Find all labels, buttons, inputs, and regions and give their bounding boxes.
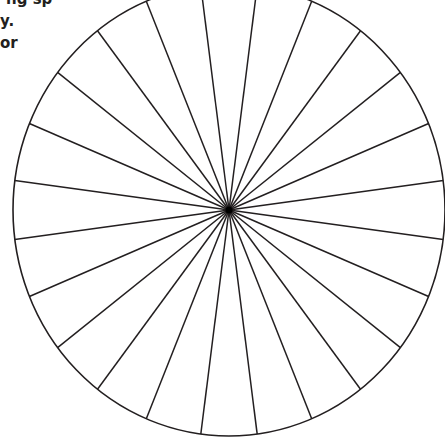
cropped-instruction-text: ng sp y. or bbox=[0, 0, 52, 54]
text-line-1: ng sp bbox=[6, 0, 52, 10]
circle-outline bbox=[13, 0, 445, 436]
text-line-2: y. bbox=[0, 10, 52, 32]
center-hub bbox=[226, 207, 233, 214]
text-line-3: or bbox=[0, 32, 52, 54]
spoked-circle-diagram bbox=[0, 0, 445, 440]
